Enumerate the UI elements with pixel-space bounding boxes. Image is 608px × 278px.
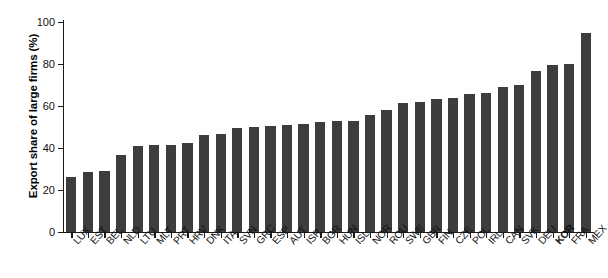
bar-svn[interactable] (232, 128, 242, 232)
x-label-slot: FIN (428, 238, 445, 278)
x-label-slot: GBR (411, 238, 428, 278)
bar-isl[interactable] (348, 121, 358, 232)
bar-mex[interactable] (581, 33, 591, 233)
x-label-slot: HRV (179, 238, 196, 278)
x-label-slot: IRL (478, 238, 495, 278)
x-label-slot: ISR (295, 238, 312, 278)
x-label-slot: CZE (445, 238, 462, 278)
x-label-slot: FRA (561, 238, 578, 278)
x-label-slot: MLT (146, 238, 163, 278)
bar-slot (511, 22, 528, 232)
bar-svk[interactable] (514, 85, 524, 232)
x-label-slot: MEX (577, 238, 594, 278)
bar-hrv[interactable] (182, 143, 192, 232)
bar-fin[interactable] (431, 99, 441, 232)
bar-irl[interactable] (481, 93, 491, 232)
x-label-slot: PRT (163, 238, 180, 278)
x-label-slot: GRC (246, 238, 263, 278)
bar-slot (229, 22, 246, 232)
x-label-slot: NLD (113, 238, 130, 278)
x-label-slot: LUX (63, 238, 80, 278)
bar-slot (544, 22, 561, 232)
bar-nor[interactable] (365, 115, 375, 232)
x-label-slot: CAN (494, 238, 511, 278)
bar-slot (312, 22, 329, 232)
bar-slot (80, 22, 97, 232)
bar-kor[interactable] (547, 65, 557, 232)
x-label-slot: KOR (544, 238, 561, 278)
bar-can[interactable] (498, 87, 508, 232)
bar-rou[interactable] (381, 110, 391, 232)
y-tick-label: 60 (43, 100, 55, 112)
bar-lux[interactable] (66, 177, 76, 232)
bar-slot (528, 22, 545, 232)
x-label-slot: ESP (262, 238, 279, 278)
bar-slot (378, 22, 395, 232)
x-axis-labels: LUXESTBELNLDLTUMLTPRTHRVDNKITASVNGRCESPA… (63, 238, 594, 278)
x-label-slot: ROU (378, 238, 395, 278)
bar-slot (329, 22, 346, 232)
bar-gbr[interactable] (415, 102, 425, 232)
bar-slot (279, 22, 296, 232)
bar-prt[interactable] (166, 145, 176, 232)
y-tick-label: 20 (43, 184, 55, 196)
bar-dnk[interactable] (199, 135, 209, 232)
bar-pol[interactable] (464, 94, 474, 232)
bar-deu[interactable] (531, 71, 541, 232)
bar-slot (345, 22, 362, 232)
x-label-slot: LTU (129, 238, 146, 278)
bar-ltu[interactable] (133, 146, 143, 232)
bar-slot (212, 22, 229, 232)
x-label-slot: ISL (345, 238, 362, 278)
bar-aut[interactable] (282, 125, 292, 232)
bar-nld[interactable] (116, 155, 126, 232)
bar-slot (295, 22, 312, 232)
bar-slot (96, 22, 113, 232)
bar-slot (494, 22, 511, 232)
y-tick-label: 100 (37, 16, 55, 28)
x-label-slot: ITA (212, 238, 229, 278)
bar-cze[interactable] (448, 98, 458, 232)
bar-slot (428, 22, 445, 232)
bar-slot (146, 22, 163, 232)
bar-isr[interactable] (298, 124, 308, 232)
x-label-slot: SVN (229, 238, 246, 278)
y-tick-label: 40 (43, 142, 55, 154)
bar-slot (262, 22, 279, 232)
bar-slot (411, 22, 428, 232)
bar-mlt[interactable] (149, 145, 159, 232)
x-label-slot: BGR (312, 238, 329, 278)
x-label-slot: AUT (279, 238, 296, 278)
bar-slot (362, 22, 379, 232)
bar-slot (246, 22, 263, 232)
bar-slot (196, 22, 213, 232)
x-label-slot: NOR (362, 238, 379, 278)
bar-slot (561, 22, 578, 232)
bar-series (63, 22, 594, 232)
bar-slot (461, 22, 478, 232)
bar-bgr[interactable] (315, 122, 325, 232)
bar-esp[interactable] (265, 126, 275, 232)
bar-slot (577, 22, 594, 232)
bar-slot (113, 22, 130, 232)
plot-area: 020406080100 (63, 22, 594, 232)
bar-slot (63, 22, 80, 232)
x-label-slot: SWE (395, 238, 412, 278)
bar-grc[interactable] (249, 127, 259, 232)
bar-hun[interactable] (332, 121, 342, 232)
bar-slot (478, 22, 495, 232)
bar-bel[interactable] (99, 171, 109, 232)
bar-slot (129, 22, 146, 232)
bar-swe[interactable] (398, 103, 408, 232)
bar-slot (445, 22, 462, 232)
bar-est[interactable] (83, 172, 93, 232)
y-axis-title: Export share of large firms (%) (22, 0, 44, 232)
bar-ita[interactable] (216, 134, 226, 232)
x-label-slot: DEU (528, 238, 545, 278)
bar-fra[interactable] (564, 64, 574, 232)
x-label-slot: POL (461, 238, 478, 278)
x-label-slot: DNK (196, 238, 213, 278)
bar-slot (395, 22, 412, 232)
x-label-slot: EST (80, 238, 97, 278)
